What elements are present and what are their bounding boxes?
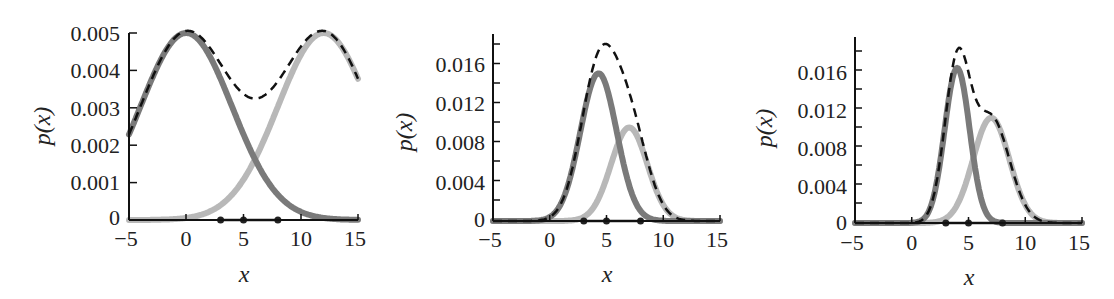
panel-3-xtick-label: 15 bbox=[1068, 230, 1090, 255]
panel-3: 0.016 0.012 0.008 0.004 0 −5 0 5 10 15 x… bbox=[751, 37, 1090, 290]
panel-2-xtick-label: 10 bbox=[652, 227, 674, 252]
panel-3-xtick-label: 0 bbox=[906, 230, 917, 255]
panel-1-xtick-label: 10 bbox=[290, 226, 312, 251]
panel-2-component-2-curve bbox=[493, 128, 720, 222]
panel-2-ytick-label: 0.004 bbox=[436, 170, 486, 195]
panel-1-xtick-label: 0 bbox=[181, 226, 192, 251]
panel-2-xtick-label: −5 bbox=[478, 227, 501, 252]
panel-2-xtick-label: 0 bbox=[544, 227, 555, 252]
panel-1-xtick-label: 15 bbox=[344, 226, 366, 251]
panel-1-ytick-label: 0.004 bbox=[71, 58, 121, 83]
panel-2-ytick-label: 0.008 bbox=[436, 130, 486, 155]
panel-3-y-ticks bbox=[855, 51, 862, 203]
panel-1-component-1-curve bbox=[129, 33, 358, 220]
panel-3-xtick-label: −5 bbox=[840, 230, 863, 255]
panel-1-ytick-label: 0.002 bbox=[71, 133, 121, 158]
panel-1-xtick-label: −5 bbox=[114, 226, 137, 251]
panel-1-ytick-label: 0.003 bbox=[71, 96, 121, 121]
panel-3-ytick-label: 0.008 bbox=[798, 136, 848, 161]
panel-2-xtick-label: 15 bbox=[706, 227, 728, 252]
panel-2-y-axis-label: p(x) bbox=[391, 113, 417, 154]
panel-2: 0.016 0.012 0.008 0.004 0 −5 0 5 10 15 x… bbox=[391, 34, 728, 287]
panel-1: 0.005 0.004 0.003 0.002 0.001 0 −5 0 5 1… bbox=[29, 21, 366, 287]
panel-3-ytick-label: 0.004 bbox=[798, 174, 848, 199]
panel-1-mixture-curve bbox=[129, 31, 358, 135]
panel-3-plot-area bbox=[855, 48, 1082, 227]
panel-3-component-1-curve bbox=[855, 68, 1082, 223]
panel-1-x-axis-label: x bbox=[238, 261, 250, 287]
panel-3-xtick-label: 5 bbox=[963, 230, 974, 255]
panel-3-xtick-label: 10 bbox=[1014, 230, 1036, 255]
panel-1-y-axis-label: p(x) bbox=[29, 107, 55, 148]
panel-2-plot-area bbox=[493, 44, 720, 225]
panel-1-y-ticks bbox=[129, 33, 137, 183]
panel-2-xtick-label: 5 bbox=[601, 227, 612, 252]
panel-3-y-axis-label: p(x) bbox=[751, 109, 777, 150]
figure: 0.005 0.004 0.003 0.002 0.001 0 −5 0 5 1… bbox=[0, 0, 1114, 299]
panel-3-ytick-label: 0.012 bbox=[798, 98, 848, 123]
panel-1-ytick-label: 0.001 bbox=[71, 170, 121, 195]
panel-2-mixture-curve bbox=[493, 44, 720, 221]
panel-3-x-axis-label: x bbox=[963, 264, 975, 290]
panel-2-y-ticks bbox=[493, 44, 500, 200]
panel-1-ytick-label: 0.005 bbox=[71, 21, 121, 46]
panel-2-x-axis-label: x bbox=[601, 261, 613, 287]
panel-2-component-1-curve bbox=[493, 73, 720, 221]
panel-2-ytick-label: 0.016 bbox=[436, 52, 486, 77]
panel-3-ytick-label: 0.016 bbox=[798, 60, 848, 85]
panel-1-plot-area bbox=[129, 31, 358, 224]
panel-2-ytick-label: 0.012 bbox=[436, 91, 486, 116]
panel-1-xtick-label: 5 bbox=[238, 226, 249, 251]
